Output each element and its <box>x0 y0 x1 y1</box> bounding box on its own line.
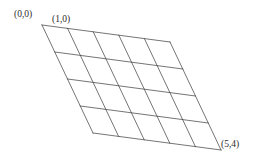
grid-line-u-2 <box>68 79 196 96</box>
lattice-grid <box>0 0 256 162</box>
grid-lines <box>42 25 221 150</box>
coordinate-label-far-corner: (5,4) <box>221 140 239 150</box>
grid-line-v-2 <box>93 32 144 140</box>
coordinate-label-unit-u: (1,0) <box>52 15 70 25</box>
figure-canvas: (0,0) (1,0) (5,4) <box>0 0 256 162</box>
grid-line-v-3 <box>119 35 170 143</box>
grid-line-u-4 <box>93 133 221 150</box>
grid-line-u-1 <box>55 52 183 69</box>
grid-line-v-4 <box>144 39 195 147</box>
grid-line-u-3 <box>80 106 208 123</box>
grid-line-u-0 <box>42 25 170 42</box>
coordinate-label-origin: (0,0) <box>14 10 32 20</box>
grid-line-v-0 <box>42 25 93 133</box>
grid-line-v-5 <box>170 42 221 150</box>
grid-line-v-1 <box>68 28 119 136</box>
